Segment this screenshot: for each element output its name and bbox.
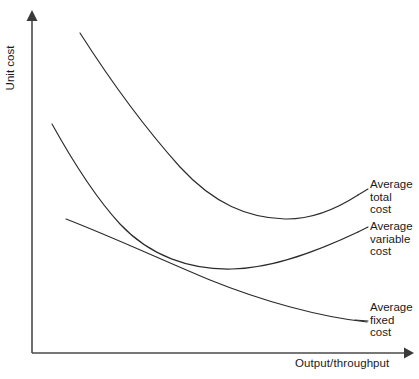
average-variable-cost-curve	[52, 124, 358, 269]
average-variable-cost-leader	[358, 227, 368, 232]
x-axis-label: Output/throughput	[295, 357, 389, 369]
average-fixed-cost-curve	[66, 219, 367, 322]
series-label-line: Average	[370, 220, 413, 233]
series-label-average-variable-cost: Average variable cost	[370, 220, 413, 258]
x-axis-arrow-icon	[404, 348, 414, 359]
y-axis-arrow-icon	[27, 10, 38, 21]
series-label-line: fixed	[370, 314, 413, 327]
average-total-cost-leader	[358, 189, 368, 195]
series-label-line: Average	[370, 178, 413, 191]
series-label-line: total	[370, 191, 413, 204]
chart-page: Unit cost Output/throughput Average tota…	[0, 0, 419, 379]
series-label-line: cost	[370, 245, 413, 258]
series-label-line: cost	[370, 203, 413, 216]
series-label-average-fixed-cost: Average fixed cost	[370, 301, 413, 339]
series-label-average-total-cost: Average total cost	[370, 178, 413, 216]
y-axis-label: Unit cost	[4, 46, 16, 91]
leader-lines-group	[355, 189, 368, 321]
axes-group	[27, 10, 415, 359]
cost-curves-plot	[0, 0, 419, 379]
series-label-line: Average	[370, 301, 413, 314]
series-label-line: variable	[370, 233, 413, 246]
y-axis-label-container: Unit cost	[2, 28, 18, 108]
series-label-line: cost	[370, 326, 413, 339]
curves-group	[52, 33, 367, 322]
average-total-cost-curve	[80, 33, 358, 219]
